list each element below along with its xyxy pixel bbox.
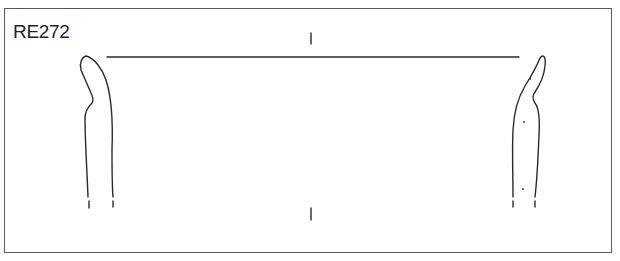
left-profile <box>80 56 113 197</box>
right-profile <box>513 56 546 197</box>
pottery-profile-drawing <box>0 0 620 261</box>
inclusion-dot <box>523 121 525 123</box>
inclusion-dot <box>529 78 531 80</box>
inclusion-dot <box>522 188 524 190</box>
